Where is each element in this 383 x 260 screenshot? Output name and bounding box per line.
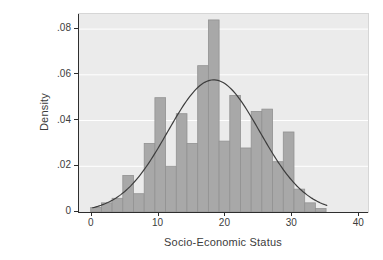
histogram-bar bbox=[273, 162, 284, 212]
y-tick-mark bbox=[74, 28, 78, 29]
y-tick-mark bbox=[74, 211, 78, 212]
histogram-bar bbox=[155, 98, 166, 212]
y-tick-mark bbox=[74, 73, 78, 74]
y-tick-label: .02 bbox=[41, 159, 71, 171]
histogram-bar bbox=[187, 143, 198, 212]
histogram-bar bbox=[262, 109, 273, 212]
histogram-bar bbox=[198, 66, 209, 212]
histogram-figure: Density 0.02.04.06.08010203040 Socio-Eco… bbox=[0, 0, 383, 260]
x-tick-mark bbox=[224, 212, 225, 216]
histogram-bar bbox=[166, 166, 177, 212]
y-tick-mark bbox=[74, 119, 78, 120]
histogram-bar bbox=[134, 194, 145, 212]
histogram-bar bbox=[219, 141, 230, 212]
x-tick-label: 10 bbox=[143, 217, 173, 229]
histogram-bar bbox=[305, 203, 316, 212]
x-tick-label: 30 bbox=[276, 217, 306, 229]
histogram-bar bbox=[176, 114, 187, 212]
histogram-bar bbox=[240, 148, 251, 212]
y-tick-label: .04 bbox=[41, 114, 71, 126]
x-tick-label: 20 bbox=[209, 217, 239, 229]
y-tick-mark bbox=[74, 165, 78, 166]
y-tick-label: .08 bbox=[41, 22, 71, 34]
x-tick-mark bbox=[158, 212, 159, 216]
x-axis-title: Socio-Economic Status bbox=[78, 236, 368, 248]
x-tick-mark bbox=[358, 212, 359, 216]
histogram-bar bbox=[315, 209, 326, 212]
plot-area bbox=[78, 13, 369, 213]
histogram-bar bbox=[208, 20, 219, 212]
histogram-plot-svg bbox=[78, 14, 368, 213]
histogram-bar bbox=[144, 143, 155, 212]
x-tick-mark bbox=[291, 212, 292, 216]
histogram-bar bbox=[294, 189, 305, 212]
y-tick-label: .06 bbox=[41, 68, 71, 80]
histogram-bar bbox=[123, 175, 134, 212]
x-tick-mark bbox=[91, 212, 92, 216]
histogram-bar bbox=[230, 95, 241, 212]
x-tick-label: 40 bbox=[343, 217, 373, 229]
y-tick-label: 0 bbox=[41, 205, 71, 217]
histogram-bar bbox=[112, 198, 123, 212]
x-tick-label: 0 bbox=[76, 217, 106, 229]
